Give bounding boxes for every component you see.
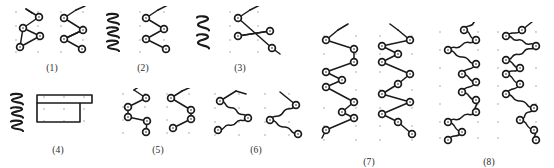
figure-panel: (3)	[188, 4, 292, 74]
diagram-7b	[368, 22, 426, 148]
panel-label: (4)	[4, 145, 112, 156]
hook-glyph	[107, 14, 119, 24]
node-group	[323, 37, 358, 134]
diagram-1b	[52, 6, 98, 56]
figure-panel: (1)	[6, 4, 98, 74]
panel-diagram-area	[6, 4, 98, 58]
dot-lattice	[43, 96, 85, 122]
edge-group	[270, 92, 298, 134]
panel-label: (6)	[204, 145, 308, 156]
panel-diagram-area	[188, 4, 292, 58]
panel-label: (2)	[100, 63, 186, 74]
diagram-6b	[256, 88, 308, 142]
figure-panel: (7)	[310, 20, 428, 168]
figure-panel: (4)	[4, 86, 112, 156]
figure-panel: (5)	[112, 86, 204, 156]
node-group	[267, 102, 302, 138]
panel-diagram-area	[204, 86, 308, 140]
glyph-column-3	[194, 14, 216, 50]
panel-label: (1)	[6, 63, 98, 74]
hook-glyph	[107, 41, 119, 51]
figure-panel: (6)	[204, 86, 308, 156]
panel-label: (8)	[428, 157, 550, 168]
panel-diagram-area	[310, 20, 428, 152]
figure-panel: (8)	[428, 20, 550, 168]
panel-label: (7)	[310, 157, 428, 168]
diagram-8a	[430, 22, 490, 148]
node-group	[61, 15, 87, 53]
diagram-2a	[130, 6, 180, 56]
hook-glyph	[197, 16, 209, 30]
figure-root: (1)(2)(3)(4)(5)(6)(7)(8)	[0, 0, 554, 168]
dot-lattice	[264, 93, 290, 136]
hook-glyph	[197, 34, 209, 48]
hook-glyph	[11, 94, 23, 104]
panel-diagram-area	[4, 86, 112, 140]
diagram-6a	[206, 88, 258, 142]
figure-panel: (2)	[100, 4, 186, 74]
panel-label: (5)	[112, 145, 204, 156]
edge-group	[218, 91, 248, 130]
diagram-7a	[312, 22, 370, 148]
diagram-5b	[158, 88, 204, 140]
glyph-column-4	[8, 92, 30, 132]
hook-glyph	[11, 121, 23, 131]
diagram-1a	[8, 6, 52, 56]
node-group	[503, 27, 540, 144]
panel-diagram-area	[428, 20, 550, 152]
hook-glyph	[107, 27, 119, 37]
node-group	[168, 95, 195, 132]
hook-glyph	[11, 107, 23, 117]
node-group	[379, 37, 416, 138]
diagram-4-bracket	[34, 92, 96, 126]
panel-diagram-area	[112, 86, 204, 140]
node-group	[125, 95, 151, 136]
diagram-3a	[218, 6, 284, 56]
glyph-column-2	[104, 12, 126, 52]
node-group	[215, 98, 252, 134]
diagram-5a	[114, 88, 160, 140]
diagram-8b	[488, 22, 548, 148]
panel-label: (3)	[188, 63, 292, 74]
panel-diagram-area	[100, 4, 186, 58]
